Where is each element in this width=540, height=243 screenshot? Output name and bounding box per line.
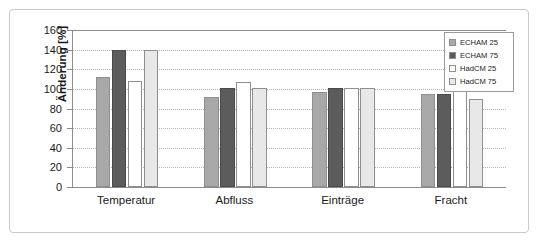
y-axis-tick-label: 160 [16, 25, 62, 35]
bar [328, 88, 343, 187]
plot-area [72, 30, 506, 188]
legend-label: ECHAM 75 [460, 51, 498, 60]
legend-label: HadCM 75 [460, 77, 496, 86]
bar [204, 97, 219, 187]
bar [344, 88, 359, 187]
x-axis-category-label: Fracht [397, 194, 505, 206]
bar [360, 88, 375, 187]
legend-swatch-icon [449, 65, 456, 72]
bar [437, 94, 452, 187]
legend-label: HadCM 25 [460, 64, 496, 73]
legend-item: HadCM 25 [449, 62, 509, 74]
y-axis-tick [67, 69, 72, 70]
bar-group [290, 30, 398, 187]
y-axis-tick-label: 100 [16, 84, 62, 94]
bar [220, 88, 235, 187]
y-axis-tick-label: 80 [16, 104, 62, 114]
x-axis-category-label: Temperatur [72, 194, 180, 206]
bar-group [181, 30, 289, 187]
x-axis-category-label: Einträge [289, 194, 397, 206]
bar [144, 50, 159, 187]
y-axis-tick [67, 50, 72, 51]
bar [236, 82, 251, 187]
bar [96, 77, 111, 187]
y-axis-tick [67, 187, 72, 188]
bar [312, 92, 327, 187]
y-axis-tick-label: 120 [16, 64, 62, 74]
y-axis-tick-label: 0 [16, 182, 62, 192]
y-axis-tick [67, 128, 72, 129]
y-axis-tick [67, 167, 72, 168]
y-axis-tick [67, 89, 72, 90]
legend-item: ECHAM 25 [449, 36, 509, 48]
x-axis-category-label: Abfluss [180, 194, 288, 206]
bar-group [73, 30, 181, 187]
y-axis-tick-label: 140 [16, 45, 62, 55]
legend-item: HadCM 75 [449, 75, 509, 87]
bar [252, 88, 267, 187]
y-axis-tick [67, 148, 72, 149]
bar [128, 81, 143, 187]
legend-swatch-icon [449, 39, 456, 46]
bar [421, 94, 436, 187]
y-axis-tick-label: 60 [16, 123, 62, 133]
legend-swatch-icon [449, 78, 456, 85]
chart-figure: Änderung [%] 020406080100120140160 Tempe… [9, 9, 529, 233]
legend-item: ECHAM 75 [449, 49, 509, 61]
bar [112, 50, 127, 187]
y-axis-tick [67, 109, 72, 110]
y-axis-tick [67, 30, 72, 31]
bar [469, 99, 484, 187]
y-axis-tick-label: 40 [16, 143, 62, 153]
y-axis-tick-label: 20 [16, 162, 62, 172]
legend-label: ECHAM 25 [460, 38, 498, 47]
bar [453, 88, 468, 187]
legend-swatch-icon [449, 52, 456, 59]
chart-legend: ECHAM 25ECHAM 75HadCM 25HadCM 75 [444, 32, 514, 92]
